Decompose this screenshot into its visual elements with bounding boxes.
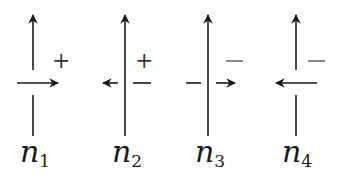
sign-n2: + xyxy=(135,48,153,73)
label-n2: n2 xyxy=(112,134,142,171)
crossing-n1 xyxy=(17,15,58,136)
crossing-diagram: + n1 + n2 n3 n4 xyxy=(0,0,340,179)
crossing-n3 xyxy=(186,15,235,136)
label-n4: n4 xyxy=(282,134,312,171)
label-n1: n1 xyxy=(20,134,50,171)
label-n3: n3 xyxy=(195,134,225,171)
sign-n1: + xyxy=(52,48,70,73)
crossing-n4 xyxy=(276,15,317,136)
crossing-n2 xyxy=(103,15,151,136)
